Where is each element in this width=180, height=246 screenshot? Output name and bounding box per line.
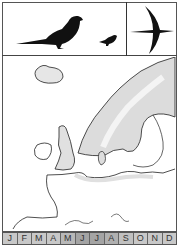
month-cell: N xyxy=(148,233,163,244)
month-cell: F xyxy=(18,233,33,244)
month-occurrence-bar: JFMAMJJASOND xyxy=(2,232,177,245)
month-cell: J xyxy=(76,233,91,244)
denmark-landmass xyxy=(98,151,105,165)
month-cell: J xyxy=(3,233,18,244)
continental-coast xyxy=(47,169,175,178)
month-cell: S xyxy=(119,233,134,244)
month-cell: M xyxy=(61,233,76,244)
month-cell: O xyxy=(134,233,149,244)
range-map xyxy=(3,57,176,231)
britain-landmass xyxy=(55,126,75,170)
month-cell: A xyxy=(47,233,62,244)
month-cell: D xyxy=(163,233,177,244)
month-cell: M xyxy=(32,233,47,244)
iceland-landmass xyxy=(35,65,63,83)
perched-bird-large-icon xyxy=(16,16,83,49)
bird-in-flight-icon xyxy=(127,2,177,56)
perched-bird-small-icon xyxy=(99,35,117,46)
month-cell: A xyxy=(105,233,120,244)
france-iberia-coast xyxy=(13,175,57,229)
month-cell: J xyxy=(90,233,105,244)
ireland-landmass xyxy=(34,143,51,160)
